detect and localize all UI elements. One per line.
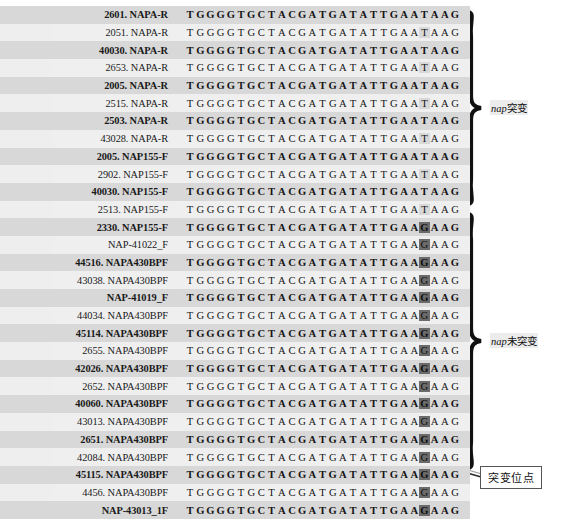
base-17: T	[348, 345, 358, 356]
base-8: C	[256, 186, 266, 197]
base-21: G	[389, 169, 399, 180]
base-7: G	[246, 434, 256, 445]
base-13: A	[307, 115, 317, 126]
base-23: A	[409, 98, 419, 109]
alignment-row: NAP-41022_FTGGGGTGCTACGATGATATTGAAGAAG	[0, 236, 470, 254]
base-9: T	[267, 98, 277, 109]
variant-base: G	[419, 487, 429, 498]
base-21: G	[389, 9, 399, 20]
base-17: T	[348, 133, 358, 144]
base-15: G	[328, 45, 338, 56]
base-18: A	[358, 292, 368, 303]
callout-label: 突变位点	[488, 472, 534, 484]
base-4: G	[216, 363, 226, 374]
variant-base: G	[419, 363, 429, 374]
base-1: T	[185, 292, 195, 303]
base-13: A	[307, 345, 317, 356]
base-5: G	[226, 275, 236, 286]
base-9: T	[267, 434, 277, 445]
base-7: G	[246, 169, 256, 180]
base-20: T	[379, 505, 389, 516]
base-18: A	[358, 239, 368, 250]
base-19: T	[368, 186, 378, 197]
base-18: A	[358, 452, 368, 463]
base-9: T	[267, 151, 277, 162]
base-12: G	[297, 292, 307, 303]
base-22: A	[399, 487, 409, 498]
base-9: T	[267, 133, 277, 144]
base-4: G	[216, 345, 226, 356]
base-14: T	[317, 505, 327, 516]
base-7: G	[246, 186, 256, 197]
base-2: G	[195, 452, 205, 463]
base-9: T	[267, 62, 277, 73]
base-8: C	[256, 452, 266, 463]
base-9: T	[267, 381, 277, 392]
base-22: A	[399, 363, 409, 374]
base-27: G	[450, 416, 460, 427]
base-19: T	[368, 469, 378, 480]
base-2: G	[195, 292, 205, 303]
base-11: C	[287, 45, 297, 56]
sample-label: 2902. NAP155-F	[0, 169, 168, 180]
base-14: T	[317, 133, 327, 144]
base-21: G	[389, 222, 399, 233]
base-13: A	[307, 363, 317, 374]
base-6: T	[236, 328, 246, 339]
base-11: C	[287, 363, 297, 374]
base-26: A	[440, 381, 450, 392]
base-17: T	[348, 257, 358, 268]
base-22: A	[399, 169, 409, 180]
base-8: C	[256, 363, 266, 374]
sample-label: 44034. NAPA430BPF	[0, 310, 168, 321]
base-22: A	[399, 398, 409, 409]
base-5: G	[226, 98, 236, 109]
base-21: G	[389, 27, 399, 38]
base-25: A	[430, 275, 440, 286]
base-14: T	[317, 257, 327, 268]
base-1: T	[185, 222, 195, 233]
alignment-row: 2652. NAPA430BPFTGGGGTGCTACGATGATATTGAAG…	[0, 377, 470, 395]
base-4: G	[216, 169, 226, 180]
base-1: T	[185, 80, 195, 91]
base-15: G	[328, 186, 338, 197]
alignment-row: 2051. NAPA-RTGGGGTGCTACGATGATATTGAATAAG	[0, 24, 470, 42]
sample-label: NAP-41019_F	[0, 292, 168, 303]
base-18: A	[358, 169, 368, 180]
base-21: G	[389, 434, 399, 445]
base-3: G	[205, 275, 215, 286]
base-18: A	[358, 62, 368, 73]
base-2: G	[195, 9, 205, 20]
base-1: T	[185, 239, 195, 250]
variant-base: G	[419, 345, 429, 356]
base-17: T	[348, 222, 358, 233]
base-6: T	[236, 345, 246, 356]
base-10: A	[277, 27, 287, 38]
base-8: C	[256, 345, 266, 356]
base-7: G	[246, 292, 256, 303]
base-16: A	[338, 381, 348, 392]
base-1: T	[185, 310, 195, 321]
sequence: TGGGGTGCTACGATGATATTGAAGAAG	[185, 381, 460, 392]
base-7: G	[246, 257, 256, 268]
base-27: G	[450, 275, 460, 286]
base-10: A	[277, 115, 287, 126]
base-23: A	[409, 487, 419, 498]
variant-base: G	[419, 398, 429, 409]
variant-base: T	[419, 133, 429, 144]
base-8: C	[256, 222, 266, 233]
sequence: TGGGGTGCTACGATGATATTGAAGAAG	[185, 469, 460, 480]
base-15: G	[328, 9, 338, 20]
base-15: G	[328, 204, 338, 215]
sample-label: 2005. NAPA-R	[0, 80, 168, 91]
alignment-row: 2503. NAPA-RTGGGGTGCTACGATGATATTGAATAAG	[0, 112, 470, 130]
base-1: T	[185, 45, 195, 56]
base-20: T	[379, 416, 389, 427]
base-26: A	[440, 310, 450, 321]
base-10: A	[277, 487, 287, 498]
base-9: T	[267, 115, 277, 126]
base-25: A	[430, 328, 440, 339]
base-17: T	[348, 62, 358, 73]
base-6: T	[236, 98, 246, 109]
base-4: G	[216, 222, 226, 233]
